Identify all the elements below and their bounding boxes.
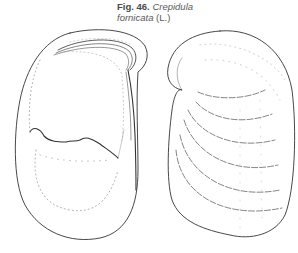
- dorsal-view: [168, 31, 295, 237]
- shell-illustration: [0, 0, 298, 253]
- ventral-view: [15, 30, 147, 240]
